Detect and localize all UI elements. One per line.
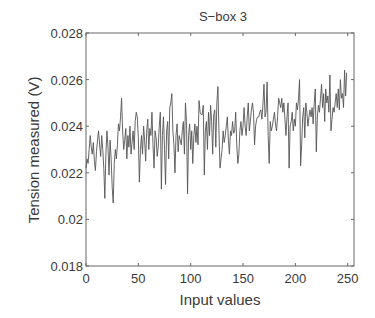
x-tick-label: 250 — [337, 271, 359, 286]
x-axis-label: Input values — [180, 291, 261, 308]
chart-title: S−box 3 — [199, 9, 247, 24]
x-tick-label: 50 — [131, 271, 145, 286]
y-axis-label: Tension measured (V) — [25, 77, 42, 224]
y-tick-label: 0.022 — [50, 166, 83, 181]
x-tick-label: 200 — [285, 271, 307, 286]
y-tick-label: 0.024 — [50, 119, 83, 134]
y-tick-label: 0.028 — [50, 26, 83, 41]
line-chart: S−box 3 0.0180.020.0220.0240.0260.028 05… — [0, 0, 375, 318]
y-tick-label: 0.018 — [50, 259, 83, 274]
x-tick-label: 150 — [232, 271, 254, 286]
y-tick-label: 0.026 — [50, 73, 83, 88]
x-tick-label: 0 — [82, 271, 89, 286]
x-tick-label: 100 — [180, 271, 202, 286]
y-tick-label: 0.02 — [58, 212, 83, 227]
